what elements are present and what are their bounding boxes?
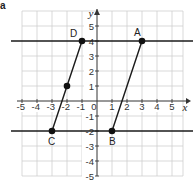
svg-text:-4: -4 — [86, 156, 94, 167]
svg-text:2: 2 — [89, 66, 94, 77]
svg-text:3: 3 — [139, 101, 144, 112]
svg-text:5: 5 — [89, 21, 94, 32]
point-a — [139, 38, 146, 45]
grid — [22, 11, 183, 176]
svg-text:4: 4 — [154, 101, 159, 112]
svg-text:1: 1 — [89, 81, 94, 92]
svg-text:-5: -5 — [17, 101, 25, 112]
svg-text:-2: -2 — [62, 101, 70, 112]
svg-text:-1: -1 — [86, 111, 94, 122]
point-label-b: B — [109, 136, 116, 147]
point-midpoint — [64, 83, 71, 90]
point-d — [79, 38, 86, 45]
point-label-c: C — [48, 136, 55, 147]
part-label: a — [0, 0, 6, 11]
svg-text:-5: -5 — [86, 171, 94, 182]
svg-text:3: 3 — [89, 51, 94, 62]
point-b — [109, 128, 116, 135]
axes — [17, 9, 186, 176]
point-label-d: D — [70, 28, 77, 39]
y-axis-arrow-icon — [94, 9, 100, 15]
svg-text:1: 1 — [109, 101, 114, 112]
svg-text:-3: -3 — [47, 101, 55, 112]
svg-text:-4: -4 — [32, 101, 40, 112]
point-label-a: A — [134, 27, 141, 38]
x-axis-label: x — [182, 101, 188, 113]
point-c — [49, 128, 56, 135]
y-axis-label: y — [88, 7, 94, 19]
svg-text:-3: -3 — [86, 141, 94, 152]
svg-text:5: 5 — [169, 101, 174, 112]
coordinate-plane: a — [0, 0, 193, 185]
svg-text:2: 2 — [124, 101, 129, 112]
